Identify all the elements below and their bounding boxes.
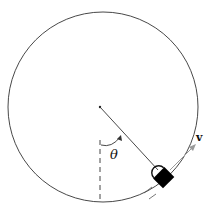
theta-label: θ — [110, 147, 118, 162]
radius-line — [100, 107, 158, 170]
angle-arc — [101, 137, 120, 146]
motion-mark — [149, 194, 156, 199]
circular-motion-diagram: θ v — [0, 0, 209, 209]
block-on-track — [148, 162, 174, 188]
velocity-vector — [170, 147, 193, 170]
velocity-label: v — [195, 131, 203, 144]
motion-mark — [144, 187, 152, 193]
